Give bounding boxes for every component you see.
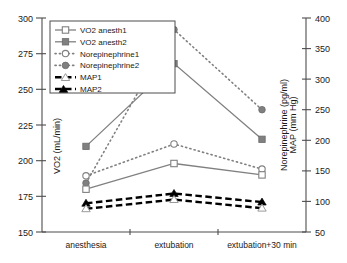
datapoint-vo2-anesth1-extubation bbox=[171, 160, 177, 166]
vo2-norepinephrine-map-line-chart: 150 175 200 225 250 275 300 VO2 (mL/min)… bbox=[0, 0, 347, 263]
legend-label-map1: MAP1 bbox=[80, 73, 102, 82]
x-axis-category-labels: anesthesia extubation extubation+30 min bbox=[65, 240, 297, 250]
datapoint-vo2-anesth2-extubation30 bbox=[259, 136, 265, 142]
left-tick-label-225: 225 bbox=[18, 121, 33, 131]
right-tick-label-350: 350 bbox=[315, 44, 330, 54]
chart-legend: VO2 anesth1 VO2 anesth2 Norepinephrine1 … bbox=[50, 21, 175, 94]
legend-label-norepinephrine1: Norepinephrine1 bbox=[80, 50, 140, 59]
legend-item-vo2-anesth1[interactable]: VO2 anesth1 bbox=[55, 26, 127, 35]
chart-container: 150 175 200 225 250 275 300 VO2 (mL/min)… bbox=[0, 0, 347, 263]
datapoint-vo2-anesth1-anesthesia bbox=[83, 186, 89, 192]
datapoint-norepinephrine2-extubation30 bbox=[259, 106, 266, 113]
right-tick-label-200: 200 bbox=[315, 136, 330, 146]
left-tick-label-275: 275 bbox=[18, 49, 33, 59]
left-tick-label-150: 150 bbox=[18, 228, 33, 238]
right-tick-label-300: 300 bbox=[315, 75, 330, 85]
right-axis-title-map: MAP (mm Hg) bbox=[288, 97, 298, 154]
right-tick-label-50: 50 bbox=[315, 228, 325, 238]
legend-label-norepinephrine2: Norepinephrine2 bbox=[80, 61, 140, 70]
datapoint-norepinephrine1-extubation bbox=[171, 141, 177, 147]
x-label-anesthesia: anesthesia bbox=[65, 240, 106, 250]
x-label-extubation-30min: extubation+30 min bbox=[227, 240, 297, 250]
left-tick-label-250: 250 bbox=[18, 85, 33, 95]
filled-square-icon bbox=[62, 39, 68, 45]
datapoint-norepinephrine1-anesthesia bbox=[83, 173, 89, 179]
legend-label-map2: MAP2 bbox=[80, 85, 102, 94]
right-tick-label-100: 100 bbox=[315, 197, 330, 207]
open-circle-icon bbox=[62, 50, 68, 56]
datapoint-vo2-anesth2-anesthesia bbox=[83, 143, 89, 149]
right-tick-label-400: 400 bbox=[315, 14, 330, 24]
left-tick-label-300: 300 bbox=[18, 14, 33, 24]
datapoint-norepinephrine2-anesthesia bbox=[83, 180, 90, 187]
legend-label-vo2-anesth2: VO2 anesth2 bbox=[80, 38, 127, 47]
left-tick-label-175: 175 bbox=[18, 192, 33, 202]
right-tick-label-250: 250 bbox=[315, 105, 330, 115]
datapoint-vo2-anesth1-extubation30 bbox=[259, 172, 265, 178]
left-tick-label-200: 200 bbox=[18, 156, 33, 166]
x-label-extubation: extubation bbox=[154, 240, 193, 250]
filled-circle-icon bbox=[62, 62, 69, 69]
left-axis-title: VO2 (mL/min) bbox=[52, 118, 62, 174]
legend-label-vo2-anesth1: VO2 anesth1 bbox=[80, 26, 127, 35]
open-square-icon bbox=[62, 27, 68, 33]
right-tick-label-150: 150 bbox=[315, 166, 330, 176]
